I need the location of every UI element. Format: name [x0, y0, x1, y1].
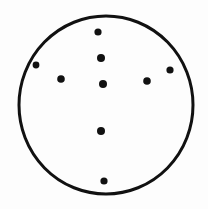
dots-group [33, 28, 174, 184]
dot [97, 54, 105, 62]
dot [99, 80, 107, 88]
dot-circle-diagram [0, 0, 208, 209]
dot [143, 77, 151, 85]
diagram-canvas [0, 0, 208, 209]
dot [33, 62, 40, 69]
outer-circle [19, 16, 193, 194]
dot [57, 75, 65, 83]
dot [166, 66, 173, 73]
dot [97, 127, 105, 135]
dot [94, 28, 101, 35]
dot [100, 177, 107, 184]
